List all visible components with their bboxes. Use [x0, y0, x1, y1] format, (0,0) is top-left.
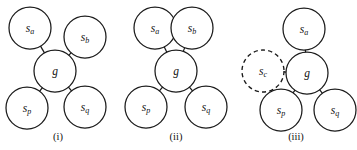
node-sb[interactable]: sb — [64, 16, 106, 58]
panel-ii: sasbgspsq(ii) — [125, 7, 227, 143]
node-sq[interactable]: sq — [185, 86, 227, 128]
node-label-g: g — [173, 65, 179, 78]
node-sb[interactable]: sb — [171, 7, 213, 49]
figure-root: sasbgspsq(i)sasbgspsq(ii)sascgspsq(iii) — [0, 0, 357, 150]
panel-caption-panel-ii: (ii) — [170, 131, 183, 143]
node-g[interactable]: g — [34, 50, 76, 92]
node-sa[interactable]: sa — [134, 7, 176, 49]
panel-iii: sascgspsq(iii) — [242, 8, 356, 143]
panel-caption-panel-i: (i) — [53, 131, 63, 143]
node-g[interactable]: g — [286, 52, 328, 94]
node-sp[interactable]: sp — [6, 87, 48, 129]
node-label-g: g — [52, 65, 58, 78]
panel-i: sasbgspsq(i) — [6, 7, 106, 143]
node-sc[interactable]: sc — [242, 50, 284, 92]
node-sa[interactable]: sa — [283, 8, 325, 50]
node-sp[interactable]: sp — [260, 89, 302, 131]
node-g[interactable]: g — [155, 50, 197, 92]
panels-layer: sasbgspsq(i)sasbgspsq(ii)sascgspsq(iii) — [6, 7, 356, 143]
panel-caption-panel-iii: (iii) — [288, 131, 304, 143]
node-sp[interactable]: sp — [125, 86, 167, 128]
node-sq[interactable]: sq — [314, 89, 356, 131]
node-sq[interactable]: sq — [64, 86, 106, 128]
graph-figure-canvas: sasbgspsq(i)sasbgspsq(ii)sascgspsq(iii) — [0, 0, 357, 150]
edge-sa-g — [40, 46, 44, 54]
node-sa[interactable]: sa — [9, 7, 51, 49]
node-label-g: g — [304, 67, 310, 80]
